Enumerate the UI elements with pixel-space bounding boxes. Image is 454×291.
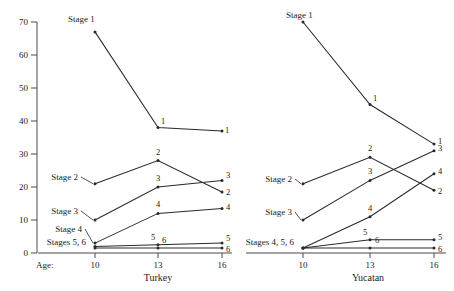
series-marker-yucatan-stage-2 <box>369 156 372 159</box>
series-marker-yucatan-stage-6 <box>369 247 372 250</box>
stage-label-yucatan-stage-1: Stage 1 <box>286 10 313 20</box>
series-marker-turkey-stage-6 <box>157 247 160 250</box>
y-axis-tick-label: 40 <box>19 116 29 126</box>
y-axis-tick-label: 10 <box>19 215 29 225</box>
y-axis-tick-label: 50 <box>19 83 29 93</box>
panel-title-turkey: Turkey <box>144 272 173 283</box>
series-marker-yucatan-stage-4 <box>433 172 436 175</box>
stage-callout-yucatan-2: Stage 3 <box>265 207 292 217</box>
point-label-yucatan-stage-5: 5 <box>363 227 367 237</box>
stage-callout-yucatan-1: Stage 2 <box>265 174 292 184</box>
series-marker-yucatan-stage-3 <box>369 179 372 182</box>
point-label-turkey-stage-2: 2 <box>226 187 230 197</box>
x-axis-tick-label: 13 <box>154 260 164 270</box>
series-marker-yucatan-stage-6 <box>433 247 436 250</box>
series-marker-turkey-stage-2 <box>221 190 224 193</box>
series-marker-turkey-stage-6 <box>221 247 224 250</box>
point-label-turkey-stage-3: 3 <box>226 170 230 180</box>
stage-callout-leader-turkey-1 <box>81 177 93 184</box>
stage-callout-leader-turkey-3 <box>85 229 93 243</box>
series-marker-yucatan-stage-1 <box>369 103 372 106</box>
series-marker-yucatan-stage-3 <box>302 219 305 222</box>
point-label-yucatan-stage-6: 6 <box>438 244 442 254</box>
series-marker-turkey-stage-5 <box>221 242 224 245</box>
series-line-yucatan-stage-5 <box>303 240 434 248</box>
y-axis-tick-label: 30 <box>19 149 29 159</box>
point-label-turkey-stage-6: 6 <box>162 235 166 245</box>
point-label-yucatan-stage-4: 4 <box>438 166 443 176</box>
point-label-yucatan-stage-4: 4 <box>368 203 373 213</box>
series-marker-yucatan-stage-5 <box>433 238 436 241</box>
point-label-yucatan-stage-6: 6 <box>375 235 379 245</box>
point-label-turkey-stage-1: 1 <box>161 116 165 126</box>
point-label-turkey-stage-3: 3 <box>156 173 160 183</box>
stage-callout-leader-yucatan-1 <box>295 179 301 184</box>
series-marker-yucatan-stage-4 <box>369 215 372 218</box>
point-label-yucatan-stage-3: 3 <box>368 166 372 176</box>
stage-callout-turkey-3: Stage 4 <box>55 224 82 234</box>
x-axis-tick-label: 10 <box>91 260 101 270</box>
stage-callout-leader-turkey-2 <box>81 211 93 220</box>
series-marker-turkey-stage-1 <box>94 30 97 33</box>
y-axis-tick-label: 60 <box>19 50 29 60</box>
series-line-yucatan-stage-1 <box>303 22 434 144</box>
point-label-yucatan-stage-1: 1 <box>373 93 377 103</box>
point-label-turkey-stage-6: 6 <box>226 244 230 254</box>
point-label-turkey-stage-2: 2 <box>156 147 160 157</box>
series-marker-turkey-stage-2 <box>157 159 160 162</box>
point-label-turkey-stage-5: 5 <box>226 233 230 243</box>
x-axis-tick-label: 13 <box>366 260 376 270</box>
point-label-turkey-stage-4: 4 <box>156 199 161 209</box>
series-marker-yucatan-stage-2 <box>433 189 436 192</box>
series-marker-yucatan-stage-1 <box>433 143 436 146</box>
chart-figure: 010203040506070101316Turkey101316Yucatan… <box>0 0 454 291</box>
series-marker-yucatan-stage-6 <box>302 247 305 250</box>
series-marker-turkey-stage-3 <box>221 179 224 182</box>
series-marker-turkey-stage-4 <box>157 212 160 215</box>
series-marker-turkey-stage-6 <box>94 247 97 250</box>
x-axis-tick-label: 10 <box>299 260 309 270</box>
point-label-turkey-stage-5: 5 <box>151 232 155 242</box>
x-axis-tick-label: 16 <box>218 260 228 270</box>
series-marker-turkey-stage-3 <box>94 219 97 222</box>
y-axis-tick-label: 0 <box>24 248 29 258</box>
point-label-yucatan-stage-2: 2 <box>368 143 372 153</box>
series-line-turkey-stage-1 <box>95 32 222 131</box>
y-axis-tick-label: 20 <box>19 182 29 192</box>
point-label-yucatan-stage-3: 3 <box>438 143 442 153</box>
stage-callout-turkey-4: Stages 5, 6 <box>47 237 87 247</box>
point-label-yucatan-stage-5: 5 <box>438 232 442 242</box>
x-axis-tick-label: 16 <box>430 260 440 270</box>
stage-callout-yucatan-3: Stages 4, 5, 6 <box>246 237 295 247</box>
point-label-turkey-stage-1: 1 <box>225 125 229 135</box>
series-marker-turkey-stage-2 <box>94 182 97 185</box>
stage-label-turkey-stage-1: Stage 1 <box>68 14 95 24</box>
series-marker-yucatan-stage-2 <box>302 182 305 185</box>
series-marker-turkey-stage-4 <box>94 242 97 245</box>
stage-callout-turkey-1: Stage 2 <box>51 172 78 182</box>
panel-title-yucatan: Yucatan <box>352 272 384 283</box>
series-marker-turkey-stage-1 <box>221 129 224 132</box>
series-marker-yucatan-stage-3 <box>433 149 436 152</box>
series-marker-turkey-stage-5 <box>157 243 160 246</box>
stage-callout-leader-yucatan-2 <box>295 212 301 220</box>
series-marker-turkey-stage-1 <box>157 126 160 129</box>
series-marker-yucatan-stage-5 <box>369 238 372 241</box>
age-axis-caption: Age: <box>36 260 54 270</box>
stage-callout-turkey-2: Stage 3 <box>51 206 78 216</box>
point-label-yucatan-stage-2: 2 <box>438 186 442 196</box>
chart-canvas: 010203040506070101316Turkey101316Yucatan… <box>0 0 454 291</box>
y-axis-tick-label: 70 <box>19 17 29 27</box>
series-marker-turkey-stage-3 <box>157 186 160 189</box>
series-marker-yucatan-stage-1 <box>302 21 305 24</box>
series-marker-turkey-stage-4 <box>221 207 224 210</box>
point-label-turkey-stage-4: 4 <box>226 202 231 212</box>
